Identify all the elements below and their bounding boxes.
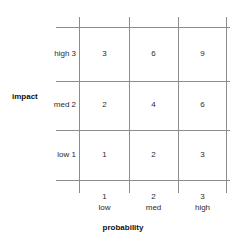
risk-matrix-diagram: impact high 3 med 2 low 1 3 6 9 2 4 6 1 … [0, 0, 246, 242]
grid-hline-bottom [56, 180, 230, 181]
grid-hline-1 [56, 81, 230, 82]
x-tick-label-high: high [178, 203, 227, 213]
row-label-high: high 3 [30, 49, 76, 59]
matrix-cell-low-low: 1 [80, 150, 129, 160]
x-tick-label-med: med [129, 203, 178, 213]
x-tick-number-2: 2 [129, 192, 178, 202]
matrix-cell-low-high: 3 [178, 150, 227, 160]
x-axis-title: probability [0, 223, 246, 233]
x-tick-number-1: 1 [80, 192, 129, 202]
matrix-cell-med-high: 6 [178, 100, 227, 110]
x-tick-number-3: 3 [178, 192, 227, 202]
row-label-med: med 2 [30, 100, 76, 110]
grid-hline-top [56, 27, 230, 28]
matrix-cell-low-med: 2 [129, 150, 178, 160]
matrix-cell-high-low: 3 [80, 49, 129, 59]
matrix-cell-med-low: 2 [80, 100, 129, 110]
matrix-cell-med-med: 4 [129, 100, 178, 110]
row-label-low: low 1 [30, 150, 76, 160]
x-tick-label-low: low [80, 203, 129, 213]
matrix-cell-high-med: 6 [129, 49, 178, 59]
grid-hline-2 [56, 130, 230, 131]
matrix-cell-high-high: 9 [178, 49, 227, 59]
